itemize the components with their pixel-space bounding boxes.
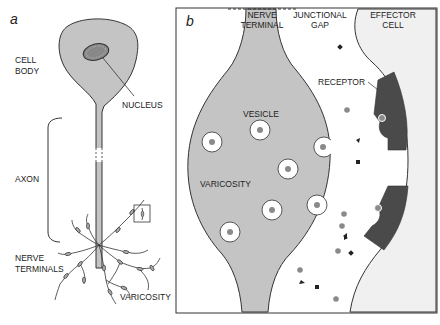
vesicle-fusing [314,137,331,157]
label-cell-b: CELL [382,20,404,30]
axon-break [95,148,103,162]
label-receptor: RECEPTOR [318,77,365,87]
diagram-canvas: a CELL BODY NUCLEUS AXON NERVE TERMINALS… [0,0,440,325]
vesicle [220,222,240,242]
panel-b-letter: b [186,13,194,29]
axon-bracket [48,118,62,242]
label-cell: CELL [15,55,37,65]
vesicle [250,120,270,140]
label-gap: GAP [311,20,329,30]
bound-transmitter-upper [379,115,386,122]
label-nucleus: NUCLEUS [122,100,163,110]
panel-b: b NERVE TERMINAL JUNCTIONAL GAP EFFECTOR… [176,8,437,313]
vesicle [202,132,222,152]
panel-a: a CELL BODY NUCLEUS AXON NERVE TERMINALS… [10,11,171,304]
label-junctional: JUNCTIONAL [293,10,347,20]
zoom-box-varicosity [141,211,144,217]
bound-transmitter-lower [375,205,382,212]
label-varicosity-b: VARICOSITY [200,179,251,189]
vesicle [278,159,298,179]
panel-a-letter: a [10,11,18,27]
label-effector: EFFECTOR [370,10,416,20]
label-body: BODY [15,66,39,76]
label-terminal-b: TERMINAL [241,20,284,30]
label-terminals: TERMINALS [15,264,64,274]
label-nerve-b: NERVE [247,10,276,20]
label-vesicle: VESICLE [243,109,279,119]
nerve-terminal-branches [55,200,160,304]
label-nerve: NERVE [15,253,44,263]
vesicle [307,195,327,215]
label-axon: AXON [15,174,39,184]
vesicle [262,200,282,220]
label-varicosity-a: VARICOSITY [120,292,171,302]
